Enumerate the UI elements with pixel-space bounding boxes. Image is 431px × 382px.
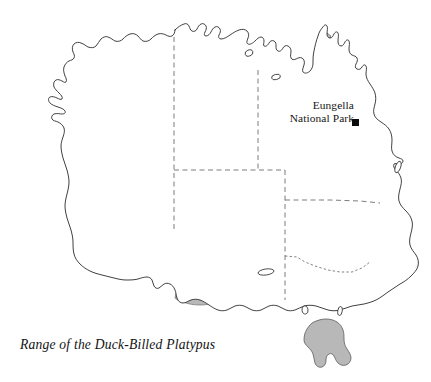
site-label-line-2: National Park — [290, 112, 354, 125]
king-island — [301, 306, 308, 315]
site-marker-square-icon — [352, 119, 359, 126]
site-label-line-1: Eungella — [290, 99, 354, 112]
site-label-eungella-national-park: Eungella National Park — [290, 99, 354, 126]
australia-map-svg — [0, 0, 431, 382]
tasmania-range-shading — [304, 319, 351, 367]
platypus-range-map-figure: Eungella National Park Range of the Duck… — [0, 0, 431, 382]
figure-caption: Range of the Duck-Billed Platypus — [20, 337, 215, 353]
australia-mainland-coastline — [49, 24, 419, 311]
